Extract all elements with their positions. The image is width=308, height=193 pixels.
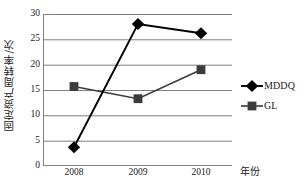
y-tick-label: 10 (18, 111, 40, 121)
x-tick-label: 2010 (192, 168, 211, 178)
x-axis-title: 年份 (240, 167, 260, 177)
x-tick-label: 2009 (129, 168, 148, 178)
y-axis-tick-labels: 30 25 20 15 10 5 0 (16, 0, 40, 193)
data-point-gl-2008 (70, 82, 79, 91)
y-axis-title-label: 固定资产周转率/次 (4, 39, 15, 131)
data-point-gl-2010 (197, 65, 206, 74)
y-tick-label: 5 (18, 136, 40, 146)
data-point-gl-2009 (134, 94, 143, 103)
x-tick-label: 2008 (65, 168, 84, 178)
plot-area (43, 14, 232, 166)
y-tick-label: 0 (18, 161, 40, 171)
legend-label-gl: GL (263, 101, 278, 111)
y-tick-label: 20 (18, 60, 40, 70)
diamond-icon (241, 79, 263, 93)
square-icon (241, 99, 263, 113)
line-chart: 固定资产周转率/次 30 25 20 15 10 5 0 (0, 0, 308, 193)
y-tick-label: 25 (18, 35, 40, 45)
x-axis-tick-labels: 2008 2009 2010 (43, 168, 232, 184)
y-tick-label: 30 (18, 9, 40, 19)
legend-label-mddq: MDDQ (263, 81, 295, 91)
chart-legend: MDDQ GL (241, 76, 307, 116)
plot-svg (43, 14, 232, 166)
y-tick-label: 15 (18, 85, 40, 95)
legend-entry-mddq: MDDQ (241, 76, 307, 96)
legend-entry-gl: GL (241, 96, 307, 116)
